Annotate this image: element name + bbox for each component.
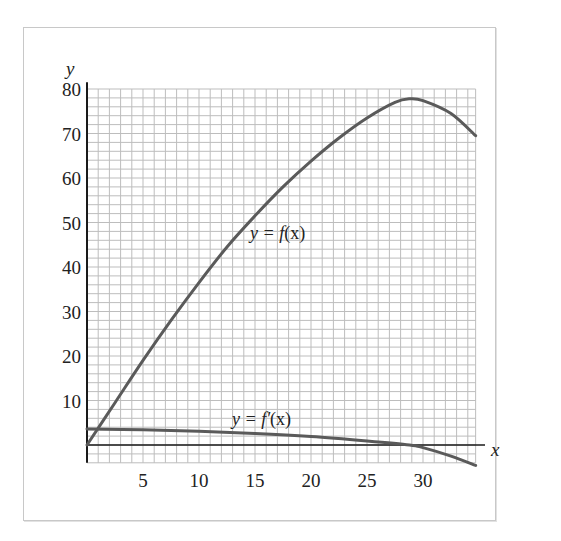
f-curve-label: y = f(x) [248, 223, 305, 244]
grid [87, 89, 476, 463]
fprime-label-arg: (x) [270, 409, 291, 430]
f-label-arg: (x) [284, 223, 305, 244]
y-tick-label: 30 [62, 302, 81, 323]
f-curve [87, 99, 476, 445]
fprime-curve [87, 429, 476, 465]
y-tick-label: 80 [62, 79, 81, 100]
x-tick-label: 15 [246, 470, 265, 491]
x-tick-label: 10 [190, 470, 209, 491]
fprime-curve-label: y = f′(x) [230, 409, 291, 430]
y-axis-label: y [64, 58, 75, 79]
x-tick-label: 25 [358, 470, 377, 491]
x-axis-label: x [490, 439, 500, 460]
y-tick-label: 10 [62, 391, 81, 412]
y-tick-label: 50 [62, 213, 81, 234]
x-tick-label: 30 [414, 470, 433, 491]
y-tick-label: 60 [62, 168, 81, 189]
chart: 510152025301020304050607080 y x y = f(x)… [0, 0, 561, 541]
x-tick-label: 5 [138, 470, 148, 491]
x-tick-label: 20 [302, 470, 321, 491]
y-tick-label: 70 [62, 124, 81, 145]
y-tick-label: 20 [62, 346, 81, 367]
axes [87, 82, 485, 462]
y-tick-label: 40 [62, 257, 81, 278]
f-label-prefix: y = [248, 223, 279, 243]
fprime-label-prefix: y = [230, 409, 261, 429]
